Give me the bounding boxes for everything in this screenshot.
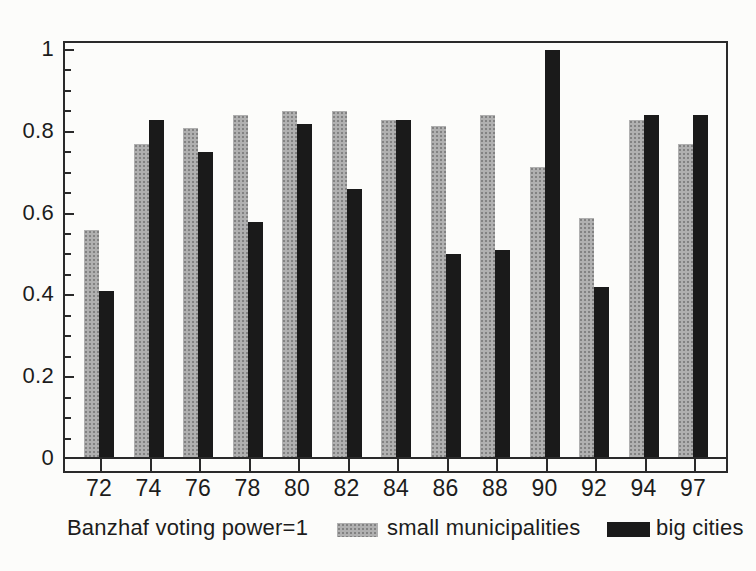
bar-big-cities-80 <box>297 124 312 457</box>
y-minor-tick-0.95 <box>65 69 71 71</box>
y-axis-label-0.6: 0.6 <box>8 200 54 226</box>
y-minor-tick-0.55 <box>65 233 71 235</box>
bar-small-municipalities-74 <box>134 144 149 457</box>
x-axis-label-94: 94 <box>618 475 670 501</box>
x-axis-label-80: 80 <box>271 475 323 501</box>
bar-small-municipalities-88 <box>480 115 495 457</box>
bar-small-municipalities-94 <box>629 120 644 457</box>
y-major-tick-0.20 <box>65 376 74 378</box>
x-tick-74 <box>150 459 152 471</box>
y-minor-tick-0.05 <box>65 438 71 440</box>
x-axis-label-72: 72 <box>73 475 125 501</box>
bar-big-cities-90 <box>545 50 560 457</box>
bar-big-cities-92 <box>594 287 609 457</box>
bar-big-cities-76 <box>198 152 213 457</box>
bar-big-cities-86 <box>446 254 461 457</box>
chart-note: Banzhaf voting power=1 <box>67 515 308 541</box>
y-minor-tick-0.15 <box>65 397 71 399</box>
y-minor-tick-0.10 <box>65 417 71 419</box>
x-axis-label-84: 84 <box>370 475 422 501</box>
x-axis-label-92: 92 <box>568 475 620 501</box>
bar-small-municipalities-90 <box>530 167 545 457</box>
x-axis-label-90: 90 <box>519 475 571 501</box>
x-tick-72 <box>100 459 102 471</box>
bar-small-municipalities-84 <box>381 120 396 457</box>
chart-figure: Banzhaf voting power=1 small municipalit… <box>0 0 756 571</box>
y-minor-tick-0.90 <box>65 90 71 92</box>
y-axis-label-0.8: 0.8 <box>8 118 54 144</box>
x-tick-94 <box>645 459 647 471</box>
bar-small-municipalities-76 <box>183 128 198 457</box>
bar-small-municipalities-80 <box>282 111 297 457</box>
y-minor-tick-0.25 <box>65 356 71 358</box>
bar-big-cities-74 <box>149 120 164 457</box>
bar-small-municipalities-78 <box>233 115 248 457</box>
x-axis-label-78: 78 <box>222 475 274 501</box>
y-major-tick-0.60 <box>65 213 74 215</box>
bar-small-municipalities-82 <box>332 111 347 457</box>
x-tick-82 <box>348 459 350 471</box>
bar-big-cities-82 <box>347 189 362 457</box>
y-minor-tick-0.30 <box>65 335 71 337</box>
bar-small-municipalities-72 <box>84 230 99 457</box>
bar-big-cities-84 <box>396 120 411 457</box>
legend-label-small-municipalities: small municipalities <box>387 515 581 541</box>
y-minor-tick-0.50 <box>65 253 71 255</box>
x-axis-label-76: 76 <box>172 475 224 501</box>
legend-label-big-cities: big cities <box>656 515 744 541</box>
y-axis-label-0.2: 0.2 <box>8 363 54 389</box>
legend-swatch-small-municipalities <box>337 523 378 537</box>
x-axis-label-97: 97 <box>667 475 719 501</box>
y-minor-tick-0.65 <box>65 192 71 194</box>
x-tick-90 <box>546 459 548 471</box>
y-minor-tick-0.35 <box>65 315 71 317</box>
x-tick-88 <box>496 459 498 471</box>
bar-small-municipalities-97 <box>678 144 693 457</box>
y-axis-label-0: 0 <box>8 445 54 471</box>
x-tick-80 <box>298 459 300 471</box>
bar-big-cities-97 <box>693 115 708 457</box>
x-tick-76 <box>199 459 201 471</box>
y-major-tick-0.40 <box>65 294 74 296</box>
y-axis-label-0.4: 0.4 <box>8 281 54 307</box>
x-axis-label-86: 86 <box>420 475 472 501</box>
y-major-tick-0.80 <box>65 131 74 133</box>
x-axis-label-74: 74 <box>123 475 175 501</box>
y-minor-tick-0.70 <box>65 172 71 174</box>
y-minor-tick-0.75 <box>65 151 71 153</box>
x-tick-84 <box>397 459 399 471</box>
y-axis-label-1: 1 <box>8 36 54 62</box>
x-axis-label-82: 82 <box>321 475 373 501</box>
x-tick-86 <box>447 459 449 471</box>
bar-big-cities-94 <box>644 115 659 457</box>
y-major-tick-1.00 <box>65 49 74 51</box>
bar-big-cities-88 <box>495 250 510 457</box>
bar-small-municipalities-92 <box>579 218 594 457</box>
x-tick-92 <box>595 459 597 471</box>
bar-big-cities-78 <box>248 222 263 457</box>
legend-swatch-big-cities <box>607 522 650 537</box>
y-minor-tick-0.85 <box>65 110 71 112</box>
x-tick-97 <box>694 459 696 471</box>
bar-big-cities-72 <box>99 291 114 457</box>
x-axis-label-88: 88 <box>469 475 521 501</box>
x-axis-ruler <box>63 459 728 473</box>
bar-small-municipalities-86 <box>431 126 446 457</box>
y-minor-tick-0.45 <box>65 274 71 276</box>
x-tick-78 <box>249 459 251 471</box>
